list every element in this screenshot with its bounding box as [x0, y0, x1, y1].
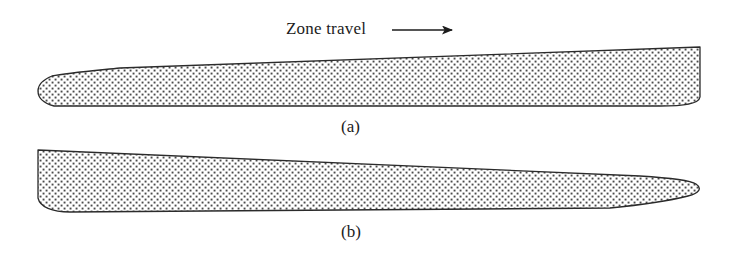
figure-canvas [0, 0, 733, 253]
zone-travel-text: Zone travel [286, 19, 366, 39]
panel-b-caption: (b) [341, 222, 361, 242]
ingot-profile-a [38, 47, 700, 106]
panel-a-shape [38, 47, 700, 106]
panel-b-shape [38, 150, 699, 212]
ingot-profile-b [38, 150, 699, 212]
zone-travel-figure: Zone travel (a) (b) [0, 0, 733, 253]
panel-a-caption: (a) [341, 117, 360, 137]
